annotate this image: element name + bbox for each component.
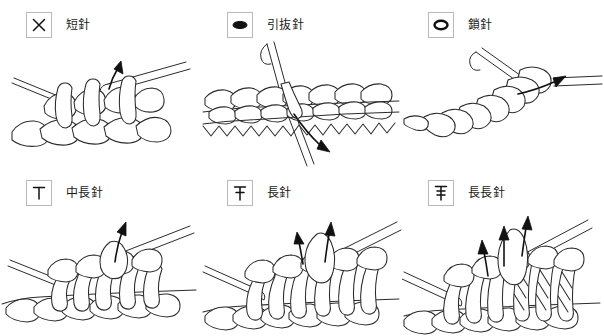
half-double-crochet-illustration	[0, 204, 201, 336]
chain-stitch-illustration	[402, 36, 603, 168]
treble-crochet-illustration	[402, 204, 603, 336]
stitch-cell-double-crochet: 長針	[201, 168, 402, 336]
open-oval-symbol	[428, 12, 454, 38]
t-bar-symbol	[26, 180, 52, 206]
single-crochet-illustration	[0, 36, 201, 168]
stitch-header: 長長針	[428, 180, 505, 206]
stitch-label: 鎖針	[468, 19, 493, 31]
stitch-label: 引抜針	[267, 19, 304, 31]
stitch-header: 鎖針	[428, 12, 493, 38]
stitch-cell-single-crochet: 短針	[0, 0, 201, 168]
stitch-cell-treble-crochet: 長長針	[402, 168, 603, 336]
stitch-label: 長長針	[468, 187, 505, 199]
t-bar-two-stroke-symbol	[428, 180, 454, 206]
stitch-symbol-sheet: 短針	[0, 0, 604, 336]
stitch-label: 長針	[267, 187, 292, 199]
stitch-label: 中長針	[66, 187, 103, 199]
double-crochet-illustration	[201, 204, 402, 336]
stitch-cell-slip-stitch: 引抜針	[201, 0, 402, 168]
filled-oval-symbol	[227, 12, 253, 38]
stitch-header: 短針	[26, 12, 91, 38]
stitch-header: 中長針	[26, 180, 103, 206]
slip-stitch-illustration	[201, 36, 402, 168]
stitch-label: 短針	[66, 19, 91, 31]
stitch-cell-half-double-crochet: 中長針	[0, 168, 201, 336]
stitch-header: 長針	[227, 180, 292, 206]
stitch-cell-chain-stitch: 鎖針	[402, 0, 603, 168]
t-bar-one-stroke-symbol	[227, 180, 253, 206]
stitch-header: 引抜針	[227, 12, 304, 38]
x-cross-symbol	[26, 12, 52, 38]
